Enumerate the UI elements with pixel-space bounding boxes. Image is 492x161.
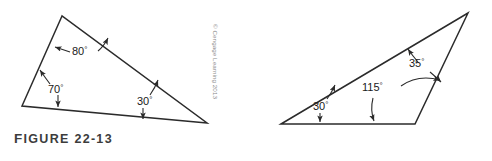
angle-label-80: 80° bbox=[72, 45, 87, 57]
triangle-outline bbox=[22, 16, 207, 123]
angle-label-115: 115° bbox=[362, 81, 383, 93]
angle-label-35: 35° bbox=[409, 57, 424, 69]
figure-caption-22-13: FIGURE 22-13 bbox=[14, 131, 113, 146]
angle-label-70: 70° bbox=[48, 83, 63, 95]
angle-label-30: 30° bbox=[313, 100, 328, 112]
angle-label-30: 30° bbox=[137, 95, 152, 107]
caption-first-letter: F bbox=[14, 131, 24, 146]
triangle-outline bbox=[281, 13, 468, 124]
figure-22-14-drawing: 30° 35° 115° bbox=[246, 0, 492, 161]
leader-arrow-70-upleft bbox=[40, 70, 50, 84]
leader-arrow-80-left bbox=[55, 47, 70, 52]
leader-arrow-115-downleft bbox=[372, 98, 374, 121]
figure-22-14: 30° 35° 115° FIGURE 22-14 © Cengage Lear… bbox=[246, 0, 492, 161]
figure-22-13: 80° 70° 30° FIGURE 22-13 © Cengage Learn… bbox=[0, 0, 246, 161]
caption-rest: IGURE 22-13 bbox=[24, 132, 113, 146]
figure-page: 80° 70° 30° FIGURE 22-13 © Cengage Learn… bbox=[0, 0, 492, 161]
copyright-notice-left: © Cengage Learning 2013 bbox=[212, 24, 219, 99]
